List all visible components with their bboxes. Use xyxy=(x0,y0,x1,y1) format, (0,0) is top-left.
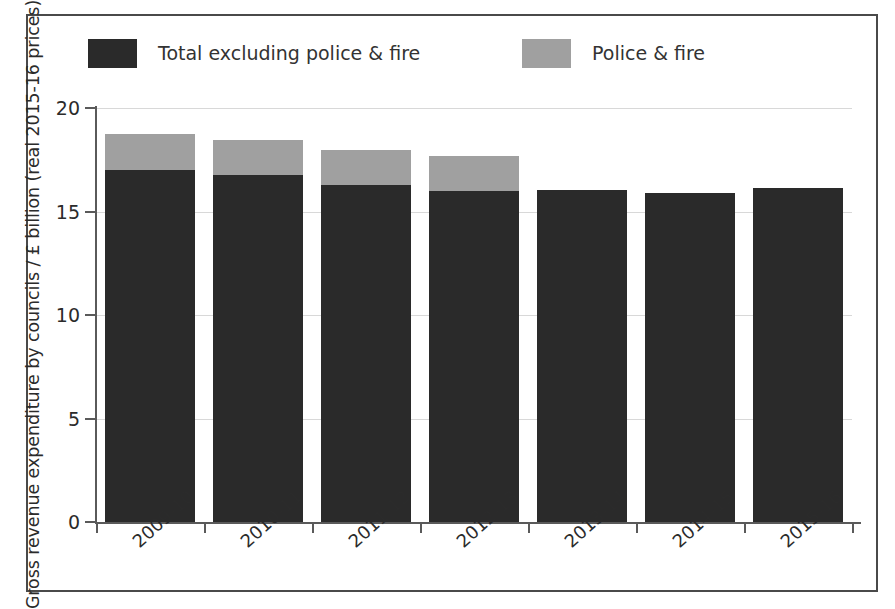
x-tick-mark xyxy=(528,523,530,533)
bar-stack[interactable] xyxy=(429,156,519,522)
bar-group xyxy=(96,108,852,522)
bar-slot xyxy=(528,108,636,522)
bar-slot xyxy=(744,108,852,522)
legend-label-police-fire: Police & fire xyxy=(592,42,705,64)
x-tick-mark xyxy=(852,523,854,533)
y-tick-label: 5 xyxy=(36,408,80,430)
bar-segment-total-excluding-police-fire[interactable] xyxy=(753,188,843,522)
bar-slot xyxy=(96,108,204,522)
legend-swatch-dark xyxy=(88,39,137,68)
bar-segment-police-fire[interactable] xyxy=(321,150,411,184)
bar-stack[interactable] xyxy=(105,134,195,522)
chart-legend: Total excluding police & fire Police & f… xyxy=(88,34,828,72)
x-tick-mark xyxy=(96,523,98,533)
y-tick-mark xyxy=(85,521,96,523)
bar-slot xyxy=(636,108,744,522)
y-tick-mark xyxy=(85,211,96,213)
legend-entry-police-fire: Police & fire xyxy=(522,34,705,72)
bar-stack[interactable] xyxy=(753,188,843,522)
y-tick-mark xyxy=(85,418,96,420)
plot-area xyxy=(96,108,852,522)
bar-stack[interactable] xyxy=(321,150,411,522)
bar-stack[interactable] xyxy=(213,140,303,522)
bar-segment-total-excluding-police-fire[interactable] xyxy=(105,170,195,522)
y-tick-mark xyxy=(85,314,96,316)
chart-figure: Gross revenue expenditure by councils / … xyxy=(0,0,895,609)
bar-slot xyxy=(420,108,528,522)
x-tick-mark xyxy=(312,523,314,533)
bar-segment-total-excluding-police-fire[interactable] xyxy=(645,193,735,522)
bar-stack[interactable] xyxy=(645,193,735,522)
y-tick-label: 15 xyxy=(36,201,80,223)
x-tick-mark xyxy=(204,523,206,533)
bar-segment-total-excluding-police-fire[interactable] xyxy=(321,185,411,522)
x-tick-mark xyxy=(744,523,746,533)
y-tick-label: 20 xyxy=(36,97,80,119)
bar-slot xyxy=(312,108,420,522)
bar-segment-police-fire[interactable] xyxy=(213,140,303,175)
bar-stack[interactable] xyxy=(537,190,627,522)
y-tick-label: 0 xyxy=(36,511,80,533)
bar-segment-police-fire[interactable] xyxy=(429,156,519,191)
legend-label-total-excluding-police-fire: Total excluding police & fire xyxy=(158,42,420,64)
bar-segment-total-excluding-police-fire[interactable] xyxy=(213,175,303,522)
y-tick-label: 10 xyxy=(36,304,80,326)
legend-entry-total-excluding-police-fire: Total excluding police & fire xyxy=(88,34,420,72)
bar-segment-total-excluding-police-fire[interactable] xyxy=(537,190,627,522)
bar-slot xyxy=(204,108,312,522)
x-tick-mark xyxy=(420,523,422,533)
legend-swatch-grey xyxy=(522,39,571,68)
bar-segment-police-fire[interactable] xyxy=(105,134,195,170)
y-tick-mark xyxy=(85,107,96,109)
x-tick-mark xyxy=(636,523,638,533)
bar-segment-total-excluding-police-fire[interactable] xyxy=(429,191,519,522)
